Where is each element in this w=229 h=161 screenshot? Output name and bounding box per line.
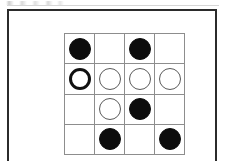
board-cell-r2c2[interactable] — [95, 64, 125, 94]
board-cell-r2c1[interactable] — [65, 64, 95, 94]
page-canvas — [0, 0, 229, 161]
black-stone[interactable] — [129, 98, 151, 120]
board-cell-r1c2[interactable] — [95, 34, 125, 64]
board-cell-r2c4[interactable] — [155, 64, 185, 94]
board-cell-r4c2[interactable] — [95, 125, 125, 155]
white-stone[interactable] — [99, 98, 121, 120]
white-stone-highlighted[interactable] — [69, 68, 91, 90]
board-cell-r2c3[interactable] — [125, 64, 155, 94]
black-stone[interactable] — [129, 38, 151, 60]
white-stone[interactable] — [99, 68, 121, 90]
board-cell-r1c3[interactable] — [125, 34, 155, 64]
black-stone[interactable] — [69, 38, 91, 60]
board-grid[interactable] — [64, 33, 185, 155]
black-stone[interactable] — [159, 128, 181, 150]
scan-rule-artifact — [7, 5, 219, 6]
white-stone[interactable] — [129, 68, 151, 90]
white-stone[interactable] — [159, 68, 181, 90]
board-cell-r3c2[interactable] — [95, 95, 125, 125]
board-cell-r3c3[interactable] — [125, 95, 155, 125]
board-cell-r1c4[interactable] — [155, 34, 185, 64]
board-cell-r4c3[interactable] — [125, 125, 155, 155]
board-cell-r4c4[interactable] — [155, 125, 185, 155]
figure-frame — [7, 9, 217, 161]
board-cell-r3c4[interactable] — [155, 95, 185, 125]
board-cell-r3c1[interactable] — [65, 95, 95, 125]
board-cell-r4c1[interactable] — [65, 125, 95, 155]
black-stone[interactable] — [99, 128, 121, 150]
board-cell-r1c1[interactable] — [65, 34, 95, 64]
scan-speckle-artifact — [6, 1, 64, 5]
